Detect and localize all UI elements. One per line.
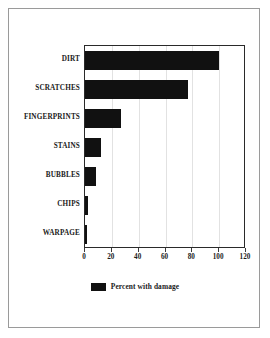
bar-row xyxy=(85,75,188,104)
x-axis-tick xyxy=(138,248,139,252)
bar xyxy=(85,167,96,186)
x-axis-tick-label: 0 xyxy=(82,253,86,261)
bar-row xyxy=(85,220,87,248)
y-axis-tick-label: SCRATCHES xyxy=(4,84,80,93)
y-axis-tick-label: WARPAGE xyxy=(4,229,80,238)
y-axis-tick-label: BUBBLES xyxy=(4,171,80,180)
bar xyxy=(85,51,219,70)
bar xyxy=(85,109,121,128)
plot-area xyxy=(84,45,245,248)
x-axis-tick xyxy=(84,248,85,252)
bar-row xyxy=(85,133,101,162)
bar-row xyxy=(85,191,88,220)
x-axis-tick xyxy=(165,248,166,252)
bar-row xyxy=(85,162,96,191)
x-axis-tick xyxy=(191,248,192,252)
y-axis-tick-label: DIRT xyxy=(4,55,80,64)
x-axis-tick-label: 80 xyxy=(188,253,195,261)
chart: DIRTSCRATCHESFINGERPRINTSSTAINSBUBBLESCH… xyxy=(0,0,270,338)
x-axis-tick-label: 20 xyxy=(107,253,114,261)
legend-label: Percent with damage xyxy=(111,282,179,291)
y-axis-labels: DIRTSCRATCHESFINGERPRINTSSTAINSBUBBLESCH… xyxy=(2,45,80,248)
figure: DIRTSCRATCHESFINGERPRINTSSTAINSBUBBLESCH… xyxy=(0,0,270,338)
legend-swatch-icon xyxy=(91,283,106,291)
x-axis-tick-label: 40 xyxy=(134,253,141,261)
y-axis-tick-label: CHIPS xyxy=(4,200,80,209)
x-axis-tick-label: 60 xyxy=(161,253,168,261)
bar xyxy=(85,138,101,157)
legend: Percent with damage xyxy=(0,282,270,291)
bar xyxy=(85,225,87,244)
bar-row xyxy=(85,104,121,133)
y-axis-tick-label: FINGERPRINTS xyxy=(4,113,80,122)
bar-row xyxy=(85,46,219,75)
x-axis-tick xyxy=(111,248,112,252)
bar-series xyxy=(85,46,244,247)
y-axis-tick-label: STAINS xyxy=(4,142,80,151)
x-axis-tick xyxy=(245,248,246,252)
x-axis-tick-label: 120 xyxy=(240,253,251,261)
x-axis-tick xyxy=(218,248,219,252)
bar xyxy=(85,80,188,99)
x-axis: 020406080100120 xyxy=(84,248,245,266)
bar xyxy=(85,196,88,215)
x-axis-tick-label: 100 xyxy=(213,253,224,261)
